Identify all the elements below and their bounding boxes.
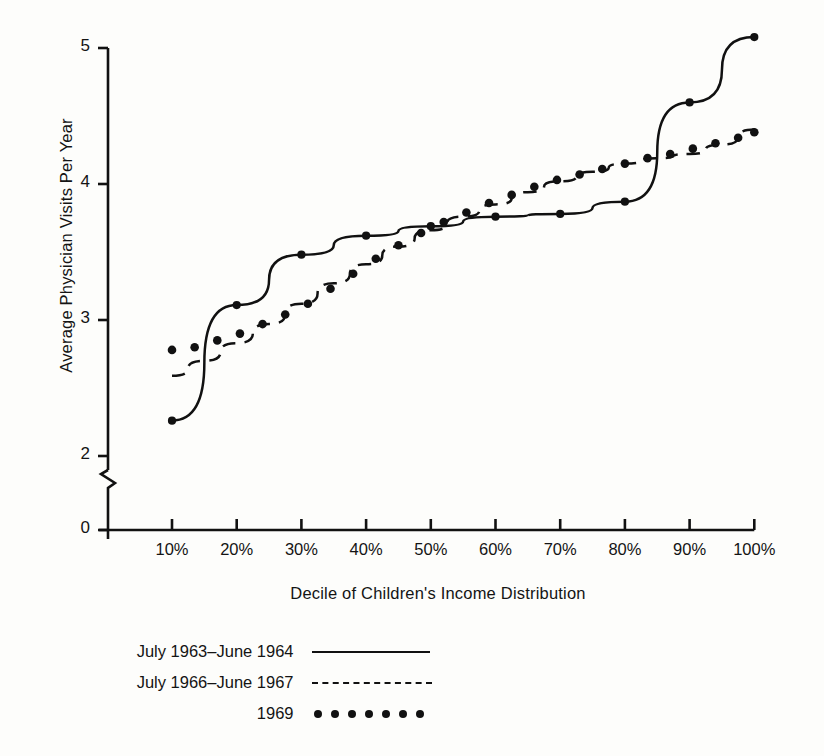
dashed-line-swatch [312,682,432,684]
chart-legend: July 1963–June 1964 July 1966–June 1967 … [60,636,460,729]
series-2 [172,130,754,376]
legend-row: July 1963–June 1964 [60,636,460,667]
dashed-line-key [312,673,460,693]
y-tick-label: 5 [50,36,90,56]
y-axis-title: Average Physician Visits Per Year [57,96,76,396]
legend-label-1966: July 1966–June 1967 [60,673,294,692]
solid-line-key [312,642,460,662]
y-tick-label: 4 [50,172,90,192]
y-tick-label: 2 [50,444,90,464]
legend-label-1963: July 1963–June 1964 [60,642,294,661]
dotted-line-key [312,704,460,724]
tick-marks-group [98,48,754,530]
figure-root: Average Physician Visits Per Year Decile… [0,0,824,756]
x-axis-title: Decile of Children's Income Distribution [108,584,768,603]
solid-line-swatch [312,651,430,653]
physician-visits-chart: Average Physician Visits Per Year Decile… [0,0,824,756]
legend-row: July 1966–June 1967 [60,667,460,698]
legend-row: 1969 [60,698,460,729]
axes-group [99,48,754,539]
y-tick-label: 0 [50,518,90,538]
series-group [168,33,759,425]
x-tick-label: 100% [714,540,794,559]
y-tick-label: 3 [50,308,90,328]
series-3 [168,128,759,354]
series-1 [168,33,759,425]
dotted-line-swatch [314,708,444,720]
legend-label-1969: 1969 [60,704,294,723]
